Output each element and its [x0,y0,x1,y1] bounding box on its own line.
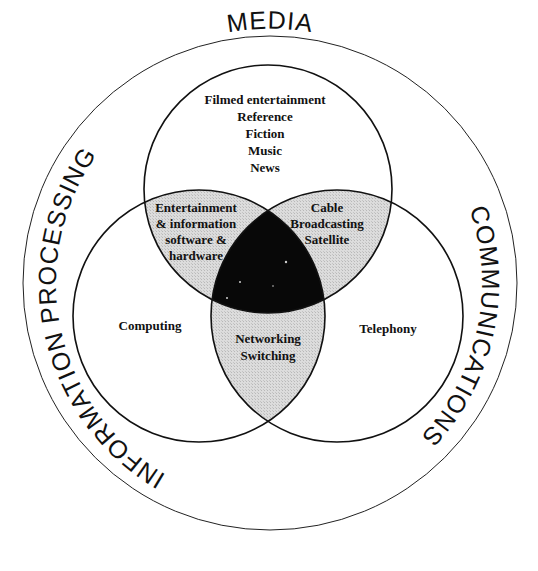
media-item: Music [248,143,282,158]
media-item: Filmed entertainment [205,92,327,107]
media-communications-item: Broadcasting [290,216,364,231]
media-item: News [250,160,280,175]
media-communications-item: Cable [311,200,344,215]
media-information-item: hardware [169,248,223,263]
information-communications-item: Networking [235,331,301,346]
media-item: Reference [237,109,293,124]
media-items: Filmed entertainment Reference Fiction M… [205,92,327,175]
communications-item: Telephony [359,321,417,336]
ring-label-communications: COMMUNICATIONS [416,202,505,452]
information-processing-item: Computing [119,318,182,333]
ring-label-media: MEDIA [225,6,315,38]
media-communications-item: Satellite [305,232,350,247]
media-information-item: software & [165,232,227,247]
information-communications-item: Switching [241,348,296,363]
media-item: Fiction [246,126,286,141]
media-information-item: & information [156,216,237,231]
media-information-item: Entertainment [155,200,237,215]
venn-diagram: MEDIA INFORMATION PROCESSING COMMUNICATI… [0,0,538,571]
